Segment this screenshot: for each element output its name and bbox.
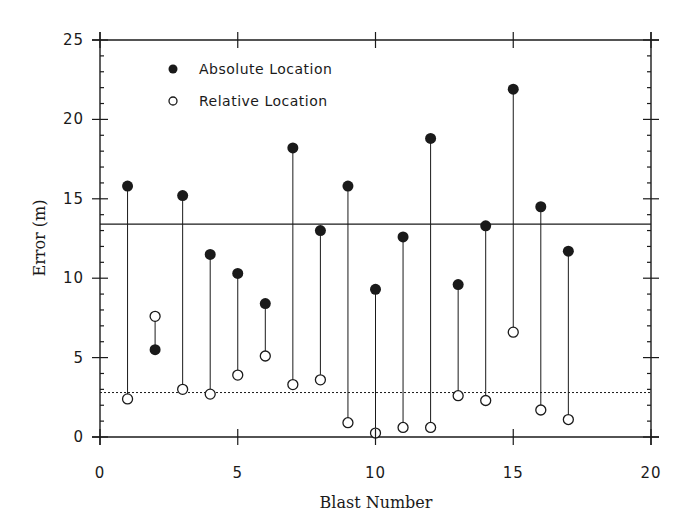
y-tick-label: 0 [73,428,84,446]
x-tick-label: 0 [95,464,106,482]
relative-location-point [563,415,573,425]
absolute-location-point [563,246,574,257]
absolute-location-point [453,279,464,290]
relative-location-point [150,311,160,321]
absolute-location-point [232,268,243,279]
relative-location-point [453,391,463,401]
absolute-location-point [150,344,161,355]
connector-stems [128,89,569,433]
relative-location-point [343,418,353,428]
relative-location-point [536,405,546,415]
legend: Absolute Location Relative Location [169,61,333,109]
absolute-location-point [425,133,436,144]
relative-location-point [398,422,408,432]
y-tick-label: 10 [63,269,84,287]
x-tick-label: 5 [232,464,243,482]
absolute-location-point [508,84,519,95]
y-tick-label: 15 [63,190,84,208]
relative-location-point [178,384,188,394]
x-axis-title: Blast Number [320,493,433,512]
legend-relative-label: Relative Location [199,93,328,109]
absolute-location-point [177,190,188,201]
absolute-location-point [122,181,133,192]
absolute-location-point [342,181,353,192]
absolute-location-point [287,142,298,153]
relative-location-point [123,394,133,404]
absolute-location-point [370,284,381,295]
relative-location-point [315,375,325,385]
absolute-location-point [398,231,409,242]
relative-location-point [260,351,270,361]
absolute-location-point [260,298,271,309]
legend-filled-circle-icon [169,65,178,74]
x-tick-label: 10 [365,464,386,482]
axis-ticks: 051015202505101520 [63,31,662,482]
y-tick-label: 25 [63,31,84,49]
legend-open-circle-icon [169,97,177,105]
x-tick-label: 20 [640,464,661,482]
absolute-location-point [315,225,326,236]
relative-location-point [233,370,243,380]
absolute-location-point [480,220,491,231]
y-tick-label: 20 [63,110,84,128]
legend-absolute-label: Absolute Location [199,61,332,77]
y-axis-title: Error (m) [30,200,49,277]
relative-location-point [508,327,518,337]
absolute-location-point [205,249,216,260]
relative-location-point [481,395,491,405]
error-vs-blast-chart: 051015202505101520 Absolute Location Rel… [0,0,687,532]
relative-location-point [205,389,215,399]
absolute-location-point [535,201,546,212]
x-tick-label: 15 [503,464,524,482]
y-tick-label: 5 [73,349,84,367]
relative-location-point [288,380,298,390]
relative-location-point [426,422,436,432]
